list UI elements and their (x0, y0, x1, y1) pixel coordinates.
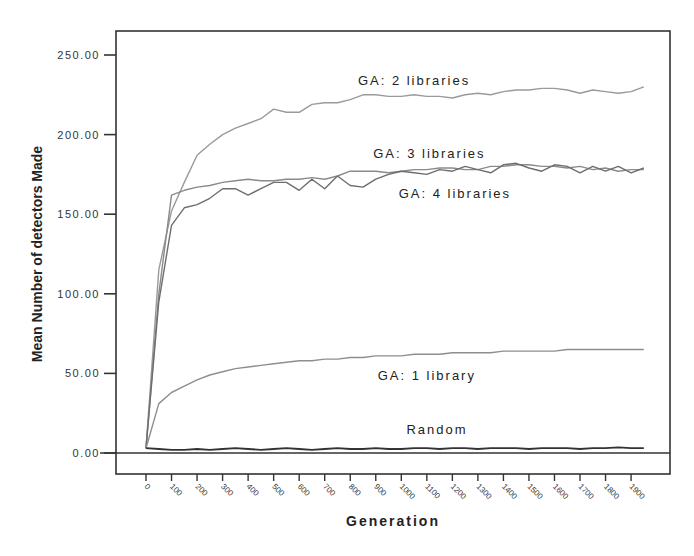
x-tick-label: 1100 (423, 482, 442, 501)
x-tick-label: 1000 (398, 482, 417, 501)
series-label: Random (406, 422, 467, 437)
x-tick-label: 600 (296, 482, 312, 498)
x-tick-label: 1600 (551, 482, 570, 501)
x-tick-label: 1800 (602, 482, 621, 501)
y-tick-label: 50.00 (65, 367, 100, 379)
x-tick-label: 1500 (526, 482, 545, 501)
x-tick-label: 1900 (628, 482, 647, 501)
x-tick-label: 0 (143, 482, 153, 492)
x-axis-title: Generation (346, 513, 440, 529)
x-tick-label: 1700 (577, 482, 596, 501)
series-label: GA: 4 libraries (399, 186, 511, 201)
plot-frame (116, 31, 670, 474)
x-tick-label: 200 (194, 482, 210, 498)
x-axis: 0100200300400500600700800900100011001200… (143, 474, 647, 501)
series-label: GA: 1 library (378, 368, 476, 383)
y-tick-label: 150.00 (57, 208, 100, 220)
y-axis-title: Mean Number of detectors Made (29, 146, 45, 362)
y-tick-label: 0.00 (73, 447, 100, 459)
x-tick-label: 1200 (449, 482, 468, 501)
series-label: GA: 2 libraries (358, 73, 470, 88)
y-axis: 0.0050.00100.00150.00200.00250.00 (57, 49, 116, 459)
x-tick-label: 100 (168, 482, 184, 498)
x-tick-label: 1300 (474, 482, 493, 501)
x-tick-label: 900 (372, 482, 388, 498)
line-chart: 0.0050.00100.00150.00200.00250.00 010020… (0, 0, 694, 556)
series-label: GA: 3 libraries (373, 146, 485, 161)
x-tick-label: 300 (219, 482, 235, 498)
x-tick-label: 400 (245, 482, 261, 498)
y-tick-label: 250.00 (57, 49, 100, 61)
x-tick-label: 700 (321, 482, 337, 498)
x-tick-label: 500 (270, 482, 286, 498)
y-tick-label: 100.00 (57, 288, 100, 300)
x-tick-label: 800 (347, 482, 363, 498)
y-tick-label: 200.00 (57, 129, 100, 141)
x-tick-label: 1400 (500, 482, 519, 501)
